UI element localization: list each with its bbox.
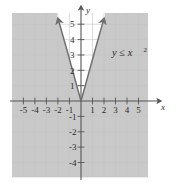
y-tick-label: -2 — [69, 127, 77, 137]
y-tick-label: 2 — [70, 66, 75, 76]
y-tick-label: -4 — [69, 158, 77, 168]
y-tick-label: 1 — [70, 81, 75, 91]
x-tick-label: 2 — [102, 105, 107, 115]
x-tick-label: -5 — [20, 105, 28, 115]
inequality-label-text: y ≤ x — [111, 47, 133, 58]
y-tick-label: 5 — [70, 19, 75, 29]
x-tick-label: -4 — [31, 105, 39, 115]
x-tick-label: -3 — [43, 105, 51, 115]
graph-figure: Graph of the inequality y is less than o… — [0, 0, 176, 187]
inequality-label-exponent: 2 — [144, 46, 148, 54]
x-axis-label: x — [160, 102, 165, 112]
y-tick-label: -3 — [69, 142, 77, 152]
x-tick-label: 4 — [125, 105, 130, 115]
x-tick-label: -2 — [54, 105, 62, 115]
y-axis-label: y — [85, 5, 90, 15]
coordinate-plane-svg: -5 -4 -3 -2 -1 1 2 3 4 5 5 4 3 2 1 -1 -2… — [0, 0, 176, 187]
y-tick-label: -1 — [69, 112, 77, 122]
x-tick-label: 3 — [113, 105, 118, 115]
y-tick-label: 4 — [70, 35, 75, 45]
y-tick-label: 3 — [70, 50, 75, 60]
x-tick-label: 1 — [90, 105, 95, 115]
x-tick-label: 5 — [136, 105, 141, 115]
